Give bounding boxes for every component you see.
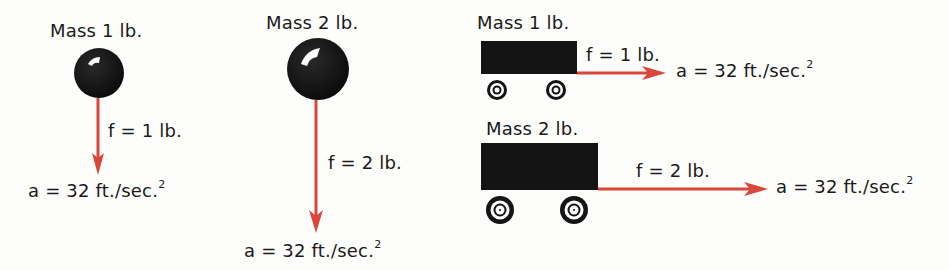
cart-2-force-label: f = 2 lb. — [636, 160, 710, 181]
cart-2-mass — [481, 143, 598, 224]
cart-1-force-label: f = 1 lb. — [586, 44, 660, 65]
ball-1-force-label: f = 1 lb. — [108, 120, 182, 141]
cart-1-force-arrow — [577, 66, 666, 80]
cart-2-force-arrow — [598, 182, 768, 196]
exponent: 2 — [374, 238, 381, 251]
accel-text: a = 32 ft./sec. — [244, 240, 374, 261]
wheel-icon — [546, 80, 566, 100]
ball-1-force-arrow — [92, 98, 104, 175]
exponent: 2 — [806, 58, 813, 71]
ball-2-mass-label: Mass 2 lb. — [266, 12, 358, 33]
cart-1-mass — [481, 41, 577, 100]
cart-2-accel-label: a = 32 ft./sec.2 — [776, 176, 913, 197]
exponent: 2 — [906, 174, 913, 187]
ball-1-mass-label: Mass 1 lb. — [50, 20, 142, 41]
accel-text: a = 32 ft./sec. — [676, 60, 806, 81]
ball-2-accel-label: a = 32 ft./sec.2 — [244, 240, 381, 261]
wheel-icon — [487, 80, 507, 100]
cart-1-accel-label: a = 32 ft./sec.2 — [676, 60, 813, 81]
accel-text: a = 32 ft./sec. — [776, 176, 906, 197]
wheel-icon — [560, 196, 588, 224]
ball-1-accel-label: a = 32 ft./sec.2 — [28, 180, 165, 201]
ball-2-force-arrow — [309, 100, 323, 233]
ball-2-force-label: f = 2 lb. — [328, 152, 402, 173]
ball-2-mass — [287, 38, 349, 100]
accel-text: a = 32 ft./sec. — [28, 180, 158, 201]
cart-1-mass-label: Mass 1 lb. — [477, 12, 569, 33]
wheel-icon — [486, 196, 514, 224]
ball-1-mass — [74, 48, 124, 98]
cart-2-mass-label: Mass 2 lb. — [486, 118, 578, 139]
exponent: 2 — [158, 178, 165, 191]
